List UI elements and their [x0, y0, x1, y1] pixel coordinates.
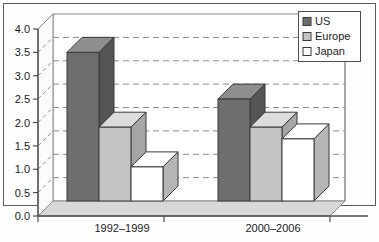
- x-category-label-2: 2000–2006: [245, 222, 300, 234]
- y-axis-ticks: [33, 29, 38, 216]
- chart-figure: 4.0 3.5 3.0 2.5 2.0 1.5 1.0 0.5 0.0: [0, 0, 379, 242]
- x-category-label-1: 1992–1999: [94, 222, 149, 234]
- legend-swatch-us: [303, 18, 311, 26]
- bar-front-face: [282, 139, 314, 201]
- bar-japan-1992-1999[interactable]: [131, 152, 178, 201]
- bar-japan-2000-2006[interactable]: [282, 124, 329, 201]
- bar-front-face: [99, 127, 131, 201]
- bar-chart-svg: 4.0 3.5 3.0 2.5 2.0 1.5 1.0 0.5 0.0: [0, 0, 379, 242]
- legend-label-japan: Japan: [315, 45, 345, 57]
- plot-floor: [38, 201, 345, 216]
- bar-front-face: [250, 127, 282, 201]
- legend-swatch-europe: [303, 33, 311, 41]
- y-tick-label: 0.0: [15, 210, 30, 222]
- y-tick-label: 2.0: [15, 117, 30, 129]
- y-tick-labels: 4.0 3.5 3.0 2.5 2.0 1.5 1.0 0.5 0.0: [15, 23, 30, 222]
- bar-front-face: [218, 99, 250, 201]
- legend-swatch-japan: [303, 48, 311, 56]
- y-tick-label: 1.0: [15, 163, 30, 175]
- y-tick-label: 4.0: [15, 23, 30, 35]
- y-tick-label: 1.5: [15, 140, 30, 152]
- legend: US Europe Japan: [299, 12, 361, 62]
- y-tick-label: 3.0: [15, 70, 30, 82]
- legend-label-us: US: [315, 15, 330, 27]
- bar-front-face: [131, 167, 163, 201]
- y-tick-label: 2.5: [15, 93, 30, 105]
- legend-label-europe: Europe: [315, 30, 350, 42]
- y-tick-label: 3.5: [15, 46, 30, 58]
- bar-front-face: [67, 52, 99, 201]
- y-tick-label: 0.5: [15, 187, 30, 199]
